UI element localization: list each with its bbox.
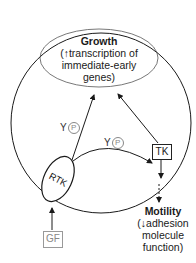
phospho-label-1: YP	[60, 122, 80, 134]
gf-box: GF	[43, 231, 63, 248]
growth-label: Growth (↑transcription of immediate-earl…	[40, 35, 158, 83]
motility-title: Motility	[130, 205, 196, 217]
phosphate-icon-2: P	[112, 137, 124, 149]
growth-line1: (↑transcription of	[40, 47, 158, 59]
phospho-label-2: YP	[104, 137, 124, 149]
growth-line3: genes)	[40, 71, 158, 83]
arrow-rtk-motility	[73, 148, 152, 163]
phosphate-icon-1: P	[68, 122, 80, 134]
growth-title: Growth	[40, 35, 158, 47]
arrow-tk-growth	[118, 94, 158, 143]
y-label-1: Y	[60, 122, 67, 133]
motility-label: Motility (↓adhesion molecule function)	[130, 205, 196, 253]
motility-line3: function)	[130, 241, 196, 253]
growth-line2: immediate-early	[40, 59, 158, 71]
motility-line1: (↓adhesion	[130, 217, 196, 229]
tk-box: TK	[152, 144, 172, 160]
motility-line2: molecule	[130, 229, 196, 241]
y-label-2: Y	[104, 137, 111, 148]
